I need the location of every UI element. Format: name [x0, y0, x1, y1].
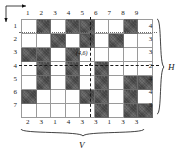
grid-cell-2-2[interactable] [36, 34, 51, 48]
grid-cell-6-5[interactable] [80, 90, 95, 104]
column-header-6: 6 [89, 10, 103, 17]
grid-cell-5-8[interactable] [123, 76, 138, 90]
grid-cell-5-4[interactable] [65, 76, 80, 90]
h-sum-row-1: 4 [146, 23, 155, 30]
grid-cell-5-3[interactable] [51, 76, 66, 90]
grid-cell-3-8[interactable] [123, 48, 138, 62]
v-sum-col-5: 3 [75, 119, 89, 126]
grid-cell-4-2[interactable] [36, 62, 51, 76]
row-header-7: 7 [9, 102, 17, 109]
grid-cell-7-8[interactable] [123, 104, 138, 118]
grid-cell-4-8[interactable] [123, 62, 138, 76]
v-sum-col-2: 3 [35, 119, 49, 126]
grid-row [22, 90, 153, 104]
grid-cell-3-7[interactable] [109, 48, 124, 62]
column-header-9: 9 [130, 10, 144, 17]
v-sum-col-9: 3 [130, 119, 144, 126]
grid-cell-2-8[interactable] [123, 34, 138, 48]
h-sum-row-6: 4 [146, 89, 155, 96]
grid-cell-6-4[interactable] [65, 90, 80, 104]
grid-cell-4-7[interactable] [109, 62, 124, 76]
v-sum-col-1: 2 [21, 119, 35, 126]
grid-cell-4-6[interactable] [94, 62, 109, 76]
column-header-7: 7 [103, 10, 117, 17]
point-marker [89, 64, 91, 66]
grid-cell-2-1[interactable] [22, 34, 37, 48]
grid-cell-5-2[interactable] [36, 76, 51, 90]
grid-cell-7-3[interactable] [51, 104, 66, 118]
v-sum-col-8: 3 [116, 119, 130, 126]
grid-cell-2-3[interactable] [51, 34, 66, 48]
v-axis-label: V [79, 140, 85, 150]
h-axis-label: H [168, 62, 175, 72]
row-header-3: 3 [9, 49, 17, 56]
grid-cell-5-6[interactable] [94, 76, 109, 90]
grid-cell-6-1[interactable] [22, 90, 37, 104]
row-header-1: 1 [9, 23, 17, 30]
grid-cell-7-2[interactable] [36, 104, 51, 118]
grid-cell-2-4[interactable] [65, 34, 80, 48]
v-sum-col-6: 3 [89, 119, 103, 126]
h-brace-icon [156, 18, 166, 116]
h-sum-row-2: 3 [146, 36, 155, 43]
grid-cell-2-6[interactable] [94, 34, 109, 48]
grid-cell-3-6[interactable] [94, 48, 109, 62]
v-brace-icon [20, 128, 146, 137]
grid-cell-6-8[interactable] [123, 90, 138, 104]
grid-row [22, 76, 153, 90]
grid-cell-5-5[interactable] [80, 76, 95, 90]
grid-cell-4-5[interactable] [80, 62, 95, 76]
grid-cell-4-3[interactable] [51, 62, 66, 76]
grid-cell-6-2[interactable] [36, 90, 51, 104]
grid-cell-7-1[interactable] [22, 104, 37, 118]
grid-cell-2-5[interactable] [80, 34, 95, 48]
grid-cell-3-1[interactable] [22, 48, 37, 62]
grid-cell-6-3[interactable] [51, 90, 66, 104]
grid-cell-2-7[interactable] [109, 34, 124, 48]
column-header-8: 8 [116, 10, 130, 17]
grid-cell-4-4[interactable] [65, 62, 80, 76]
column-header-3: 3 [48, 10, 62, 17]
grid-cell-7-6[interactable] [94, 104, 109, 118]
grid-row [22, 34, 153, 48]
grid-cell-5-1[interactable] [22, 76, 37, 90]
grid-cell-6-6[interactable] [94, 90, 109, 104]
dotted-row-guide-1 [19, 32, 157, 33]
grid-cell-7-4[interactable] [65, 104, 80, 118]
row-header-4: 4 [9, 63, 17, 70]
v-sum-col-4: 4 [62, 119, 76, 126]
h-sum-row-5: 4 [146, 76, 155, 83]
grid-row [22, 104, 153, 118]
grid-cell-5-7[interactable] [109, 76, 124, 90]
grid-cell-7-5[interactable] [80, 104, 95, 118]
grid-cell-7-7[interactable] [109, 104, 124, 118]
column-header-5: 5 [75, 10, 89, 17]
grid-cell-3-3[interactable] [51, 48, 66, 62]
column-header-1: 1 [21, 10, 35, 17]
figure-root: 123456789 1234567 (4,6) 4332443 H 231433… [0, 0, 184, 157]
h-sum-row-7: 3 [146, 102, 155, 109]
puzzle-grid[interactable] [21, 19, 153, 118]
v-sum-col-3: 1 [48, 119, 62, 126]
grid-cell-3-2[interactable] [36, 48, 51, 62]
h-sum-row-4: 2 [146, 63, 155, 70]
column-header-4: 4 [62, 10, 76, 17]
v-sum-col-7: 1 [103, 119, 117, 126]
row-header-2: 2 [9, 36, 17, 43]
grid-row [22, 62, 153, 76]
row-header-6: 6 [9, 89, 17, 96]
row-header-5: 5 [9, 76, 17, 83]
grid-cell-4-1[interactable] [22, 62, 37, 76]
point-label: (4,6) [76, 50, 88, 56]
h-sum-row-3: 3 [146, 49, 155, 56]
grid-table[interactable] [21, 19, 153, 118]
column-header-2: 2 [35, 10, 49, 17]
grid-cell-6-7[interactable] [109, 90, 124, 104]
